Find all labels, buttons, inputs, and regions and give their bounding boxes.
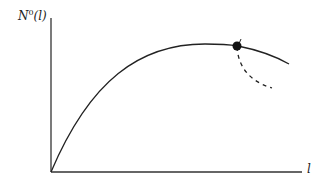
main-curve	[51, 44, 289, 172]
diagram: N0(l) l	[0, 0, 326, 183]
y-axis-label: N0(l)	[18, 8, 47, 23]
x-axis-label: l	[307, 162, 311, 176]
branch-point-marker	[233, 42, 242, 51]
dashed-branch	[237, 47, 272, 88]
plot	[0, 0, 326, 183]
